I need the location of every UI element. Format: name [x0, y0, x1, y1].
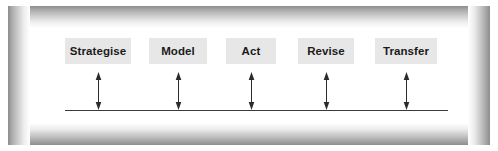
node-label: Strategise — [70, 45, 127, 57]
node-box-revise[interactable]: Revise — [298, 38, 354, 64]
double-arrow-icon-model — [173, 72, 184, 110]
frame-edge-left — [8, 6, 30, 145]
frame-edge-right — [468, 6, 490, 145]
double-arrow-icon-strategise — [93, 72, 104, 110]
diagram-frame: StrategiseModelActReviseTransfer — [8, 6, 490, 145]
node-box-act[interactable]: Act — [226, 38, 276, 64]
node-box-transfer[interactable]: Transfer — [375, 38, 437, 64]
node-box-model[interactable]: Model — [149, 38, 207, 64]
baseline-rule — [65, 110, 448, 111]
node-label: Act — [242, 45, 261, 57]
double-arrow-icon-transfer — [401, 72, 412, 110]
frame-edge-bottom — [8, 123, 490, 145]
node-label: Transfer — [383, 45, 429, 57]
double-arrow-icon-revise — [321, 72, 332, 110]
frame-edge-top — [8, 6, 490, 28]
node-label: Revise — [307, 45, 345, 57]
diagram-canvas: StrategiseModelActReviseTransfer — [30, 28, 468, 123]
node-label: Model — [161, 45, 195, 57]
double-arrow-icon-act — [246, 72, 257, 110]
node-box-strategise[interactable]: Strategise — [65, 38, 131, 64]
